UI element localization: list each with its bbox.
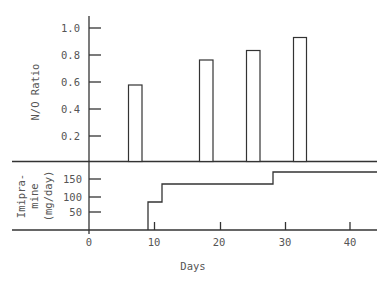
bottom-y-ticks [89, 179, 101, 212]
top-y-ticks [89, 28, 101, 136]
svg-text:0.2: 0.2 [61, 130, 80, 142]
top-y-tick-labels: 1.0 0.8 0.6 0.4 0.2 [61, 22, 80, 142]
svg-text:0.4: 0.4 [61, 103, 80, 115]
bar-day-32 [294, 38, 307, 162]
svg-text:(mg/day): (mg/day) [42, 171, 54, 222]
chart: 1.0 0.8 0.6 0.4 0.2 N/O Ratio 150 100 50… [0, 0, 387, 281]
bottom-y-axis-label: Imipra- mine (mg/day) [15, 171, 54, 222]
svg-text:100: 100 [63, 191, 82, 203]
svg-text:0: 0 [86, 236, 92, 248]
x-tick-labels: 0 10 20 30 40 [86, 236, 356, 248]
svg-text:mine: mine [28, 183, 40, 208]
ratio-bars [129, 38, 307, 162]
bottom-y-tick-labels: 150 100 50 [63, 173, 82, 218]
bar-day-7 [129, 85, 143, 162]
svg-text:1.0: 1.0 [61, 22, 80, 34]
svg-text:20: 20 [213, 236, 226, 248]
svg-text:50: 50 [69, 206, 82, 218]
svg-text:0.8: 0.8 [61, 49, 80, 61]
svg-text:30: 30 [279, 236, 292, 248]
svg-text:0.6: 0.6 [61, 76, 80, 88]
x-ticks [155, 222, 351, 230]
svg-text:Imipra-: Imipra- [15, 174, 27, 218]
bar-day-18 [200, 60, 214, 162]
imipramine-step-line [148, 172, 377, 230]
svg-text:150: 150 [63, 173, 82, 185]
svg-text:40: 40 [344, 236, 357, 248]
svg-text:10: 10 [148, 236, 161, 248]
bar-day-25 [247, 51, 261, 162]
top-y-axis-label: N/O Ratio [29, 64, 41, 121]
x-axis-label: Days [180, 260, 205, 272]
